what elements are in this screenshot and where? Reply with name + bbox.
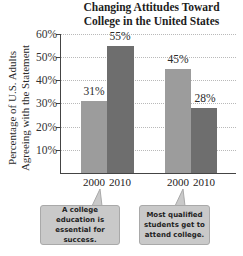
y-tick-label: 50% <box>36 51 57 63</box>
bar-group2-2010 <box>191 108 217 173</box>
gridline-40 <box>61 80 236 81</box>
bar-value-label: 28% <box>185 92 225 104</box>
x-label-group2-2010: 2010 <box>190 176 218 188</box>
bar-value-label: 31% <box>74 85 114 97</box>
gridline-50 <box>61 57 236 58</box>
chart-title: Changing Attitudes Toward College in the… <box>60 0 243 28</box>
gridline-60 <box>61 34 236 35</box>
plot-area: 60% 50% 40% 30% 20% 10% 31% 55% 45% 28% <box>60 34 236 174</box>
y-tick-label: 20% <box>36 121 57 133</box>
chart-title-line-1: Changing Attitudes Toward <box>60 0 243 14</box>
y-tick-label: 30% <box>36 97 57 109</box>
y-axis-label-line-1: Percentage of U.S. Adults <box>6 44 19 170</box>
y-axis-label: Percentage of U.S. Adults Agreeing with … <box>2 40 36 175</box>
bar-value-label: 55% <box>100 30 140 42</box>
bar-group1-2010 <box>107 46 134 173</box>
callout-statement-2: Most qualified students get to attend co… <box>139 205 210 245</box>
y-tick-label: 40% <box>36 74 57 86</box>
y-tick-label: 60% <box>36 28 57 40</box>
bar-value-label: 45% <box>158 53 198 65</box>
x-label-group1-2010: 2010 <box>106 176 134 188</box>
bar-group1-2000 <box>81 101 107 173</box>
callout-statement-1: A college education is essential for suc… <box>40 205 120 245</box>
x-label-group1-2000: 2000 <box>80 176 108 188</box>
y-axis-label-line-2: Agreeing with the Statement <box>19 44 32 170</box>
bar-group2-2000 <box>165 69 191 173</box>
x-label-group2-2000: 2000 <box>164 176 192 188</box>
callout-text: Most qualified students get to attend co… <box>144 210 205 240</box>
callout-text: A college education is essential for suc… <box>45 205 115 245</box>
chart-title-line-2: College in the United States <box>60 14 243 28</box>
y-tick-label: 10% <box>36 144 57 156</box>
